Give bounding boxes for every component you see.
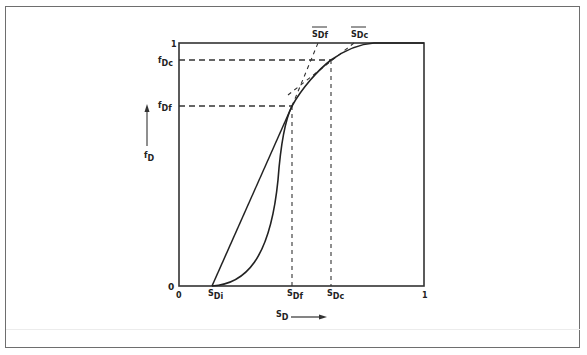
s-bar-dc-label: SDc bbox=[351, 27, 368, 40]
plot-box bbox=[179, 43, 424, 286]
s-di-label: SDi bbox=[208, 289, 223, 301]
y-axis-arrow-icon bbox=[145, 104, 150, 146]
svg-text:SDc: SDc bbox=[351, 30, 368, 40]
svg-text:SDf: SDf bbox=[312, 30, 328, 40]
f-df-label: fDf bbox=[158, 101, 172, 113]
x-axis-arrow-icon bbox=[291, 315, 327, 320]
fractional-flow-plot: 1 fDc fDf 0 fD 0 SDi SDf SDc 1 SD SDf SD… bbox=[0, 0, 587, 355]
tangent-line bbox=[212, 106, 292, 286]
s-bar-df-label: SDf bbox=[312, 27, 328, 40]
x-tick-right: 1 bbox=[422, 291, 428, 300]
x-axis-label: SD bbox=[276, 310, 289, 322]
x-tick-left: 0 bbox=[176, 291, 182, 300]
f-dc-label: fDc bbox=[158, 56, 173, 68]
y-tick-bottom: 0 bbox=[168, 282, 174, 292]
y-tick-top: 1 bbox=[171, 40, 177, 49]
s-dc-label: SDc bbox=[327, 289, 344, 301]
s-df-label: SDf bbox=[287, 289, 303, 301]
fractional-flow-curve bbox=[212, 43, 424, 286]
y-axis-label: fD bbox=[144, 151, 154, 163]
